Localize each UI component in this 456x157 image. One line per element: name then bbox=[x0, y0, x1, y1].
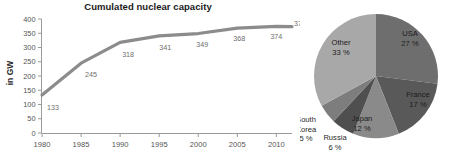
data-point-label: 349 bbox=[196, 40, 208, 49]
pie-slice-group bbox=[314, 14, 438, 138]
pie-slice-label: France bbox=[406, 90, 430, 99]
line-chart-plot: 050100150200250300350400 198019851990199… bbox=[0, 0, 300, 157]
pie-slice-label: Korea bbox=[300, 125, 317, 134]
pie-slice-value: 33 % bbox=[332, 48, 350, 57]
pie-chart-panel: USA27 %France17 %Japan12 %Russia6 %South… bbox=[300, 0, 456, 157]
x-tick-label: 1985 bbox=[73, 140, 90, 149]
data-point-label: 318 bbox=[122, 50, 134, 59]
pie-slice-label: South bbox=[300, 115, 316, 124]
pie-slice-value: 27 % bbox=[401, 39, 419, 48]
pie-slice-value: 17 % bbox=[409, 100, 427, 109]
x-tick-label: 1990 bbox=[112, 140, 129, 149]
x-tick-label: 2005 bbox=[229, 140, 246, 149]
y-tick-label: 100 bbox=[23, 100, 35, 109]
nuclear-capacity-figure: Cumulated nuclear capacity in GW 0501001… bbox=[0, 0, 456, 157]
x-tick-label: 1995 bbox=[151, 140, 168, 149]
y-tick-label: 250 bbox=[23, 57, 35, 66]
y-tick-label: 200 bbox=[23, 72, 35, 81]
pie-slice-label: Japan bbox=[352, 114, 373, 123]
pie-slice-value: 6 % bbox=[328, 143, 341, 152]
pie-slice-value: 12 % bbox=[353, 124, 371, 133]
x-tick-label: 1980 bbox=[34, 140, 51, 149]
pie-chart-plot: USA27 %France17 %Japan12 %Russia6 %South… bbox=[300, 0, 456, 157]
capacity-line-series bbox=[42, 26, 292, 95]
data-point-label: 368 bbox=[233, 34, 245, 43]
pie-slice-label: USA bbox=[402, 29, 419, 38]
data-point-label: 374 bbox=[270, 32, 282, 41]
x-tick-group: 1980198519901995200020052010 bbox=[34, 134, 285, 150]
y-tick-label: 400 bbox=[23, 15, 35, 24]
line-chart-panel: Cumulated nuclear capacity in GW 0501001… bbox=[0, 0, 300, 157]
data-point-label: 341 bbox=[159, 43, 171, 52]
x-tick-label: 2010 bbox=[268, 140, 285, 149]
y-tick-label: 350 bbox=[23, 29, 35, 38]
pie-slice bbox=[376, 14, 438, 84]
y-tick-group: 050100150200250300350400 bbox=[23, 15, 41, 138]
data-point-label: 133 bbox=[47, 103, 59, 112]
y-tick-label: 0 bbox=[31, 129, 35, 138]
pie-slice-value: 5 % bbox=[300, 134, 313, 143]
y-tick-label: 300 bbox=[23, 43, 35, 52]
data-point-label: 245 bbox=[85, 70, 97, 79]
y-tick-label: 50 bbox=[27, 114, 35, 123]
data-label-group: 133245318341349368374373 bbox=[47, 19, 300, 112]
pie-slice-label: Russia bbox=[323, 133, 347, 142]
y-tick-label: 150 bbox=[23, 86, 35, 95]
pie-slice-label: Other bbox=[332, 38, 351, 47]
x-tick-label: 2000 bbox=[190, 140, 207, 149]
